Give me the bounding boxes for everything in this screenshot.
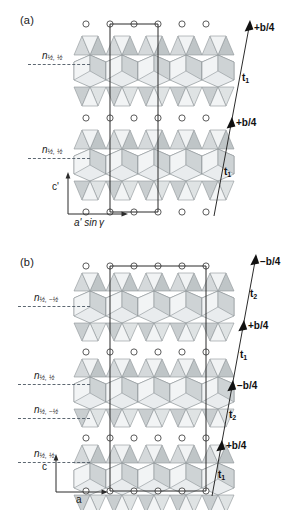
axis-label-c-b: c <box>42 461 47 472</box>
axis-label-c-prime-a: c' <box>52 181 59 192</box>
vector-shift-b-2: +b/4 <box>248 320 268 331</box>
vector-t-b-2: t1 <box>240 349 247 361</box>
nplane-line-a-2 <box>28 158 90 159</box>
vector-t-a-1: t1 <box>242 72 249 84</box>
nplane-line-b-2 <box>18 384 90 385</box>
vector-shift-text: −b/4 <box>260 256 280 267</box>
vector-t-b-1: t2 <box>250 288 257 300</box>
structure-drawing-a <box>0 0 305 248</box>
vector-shift-text: +b/4 <box>236 117 256 128</box>
vector-t-b-4: t1 <box>218 469 225 481</box>
panel-b: (b) <box>0 248 305 510</box>
nplane-line-a-1 <box>28 64 90 65</box>
vector-shift-a-2: +b/4 <box>236 117 256 128</box>
nplane-subscript: ½, −½ <box>40 408 59 415</box>
vector-shift-b-1: −b/4 <box>260 256 280 267</box>
vector-t-subscript: 2 <box>232 414 236 421</box>
nplane-subscript: ½, −½ <box>40 296 59 303</box>
vector-shift-text: +b/4 <box>226 440 246 451</box>
vector-shift-b-3: −b/4 <box>237 380 257 391</box>
nplane-line-b-3 <box>18 418 90 419</box>
vector-t-subscript: 1 <box>245 77 249 84</box>
nplane-subscript: ½, ½ <box>48 54 63 61</box>
vector-shift-text: +b/4 <box>254 22 274 33</box>
nplane-label-b-1: n½, −½ <box>34 292 58 303</box>
vector-t-subscript: 2 <box>253 293 257 300</box>
vector-t-subscript: 1 <box>243 354 247 361</box>
nplane-line-b-4 <box>18 462 90 463</box>
vector-t-subscript: 1 <box>221 474 225 481</box>
nplane-label-b-4: n½, ½ <box>34 448 54 459</box>
nplane-label-b-3: n½, −½ <box>34 404 58 415</box>
panel-a: (a) <box>0 0 305 248</box>
nplane-label-a-2: n½, ½ <box>42 144 62 155</box>
nplane-subscript: ½, ½ <box>40 452 55 459</box>
axis-gamma-symbol: γ <box>99 217 104 228</box>
axis-a-prime-sin: a' sin <box>74 217 97 228</box>
vector-shift-text: −b/4 <box>237 380 257 391</box>
vector-shift-a-1: +b/4 <box>254 22 274 33</box>
vector-t-subscript: 1 <box>227 171 231 178</box>
nplane-subscript: ½, ½ <box>48 148 63 155</box>
vector-shift-b-4: +b/4 <box>226 440 246 451</box>
nplane-label-b-2: n½, ½ <box>34 370 54 381</box>
nplane-subscript: ½, ½ <box>40 374 55 381</box>
figure-canvas: (a) <box>0 0 305 510</box>
vector-t-a-2: t1 <box>224 166 231 178</box>
nplane-label-a-1: n½, ½ <box>42 50 62 61</box>
axis-label-a-b: a <box>76 494 82 505</box>
vector-t-b-3: t2 <box>229 409 236 421</box>
nplane-line-b-1 <box>18 306 90 307</box>
axis-label-a-sin-gamma: a' sinγ <box>74 217 104 228</box>
vector-shift-text: +b/4 <box>248 320 268 331</box>
